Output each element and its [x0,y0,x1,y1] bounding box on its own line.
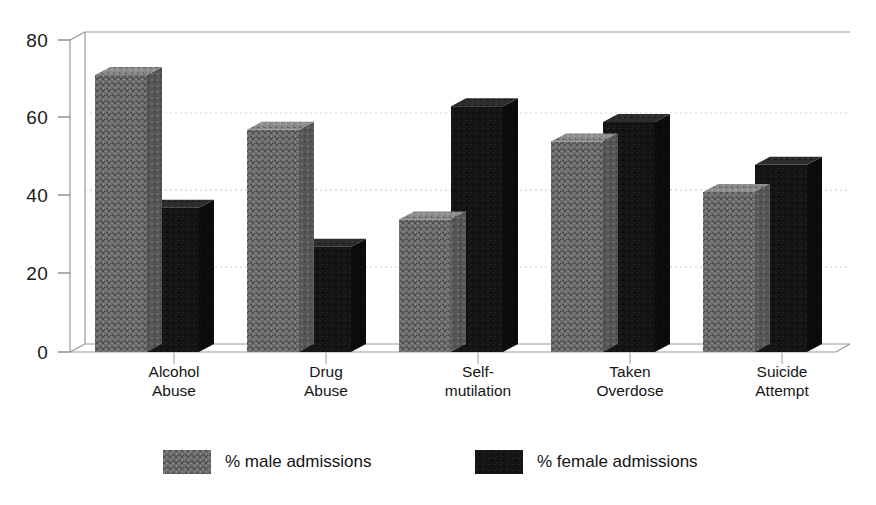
bar-front-face [399,219,451,352]
bar-suicide-attempt-male [703,184,770,352]
x-axis-label-line-1: Drug [309,363,343,380]
bar-side-face [655,114,670,352]
x-axis-label-suicide-attempt: Suicide Attempt [712,362,852,400]
legend-label-female: % female admissions [537,452,698,472]
bar-side-face [807,157,822,352]
bar-drug-abuse-male [247,122,314,352]
y-tick-label-80: 80 [4,31,48,50]
y-tick-label-0: 0 [4,343,48,362]
x-axis-label-drug-abuse: Drug Abuse [256,362,396,400]
bar-side-face [299,122,314,352]
x-axis-label-line-1: Taken [609,363,650,380]
y-tick-label-20: 20 [4,264,48,283]
bar-side-face [451,211,466,352]
x-axis-label-line-2: mutilation [408,381,548,400]
x-axis-label-line-2: Abuse [104,381,244,400]
y-tick-label-60: 60 [4,108,48,127]
bar-chart: 80 60 40 20 0 Alcohol Abuse Drug Abuse S… [0,0,876,505]
chart-legend: % male admissions % female admissions [0,450,876,496]
legend-item-male: % male admissions [163,450,371,474]
x-axis-label-line-2: Attempt [712,381,852,400]
bar-front-face [703,192,755,352]
bar-taken-overdose-male [551,133,618,352]
bar-side-face [503,98,518,352]
bar-self-mutilation-male [399,211,466,352]
x-axis-label-taken-overdose: Taken Overdose [560,362,700,400]
legend-item-female: % female admissions [475,450,698,474]
legend-swatch-female-icon [475,450,523,474]
bar-side-face [755,184,770,352]
legend-label-male: % male admissions [225,452,371,472]
x-axis-label-line-2: Overdose [560,381,700,400]
bars-layer [95,67,822,352]
x-axis-label-line-1: Suicide [757,363,808,380]
x-axis-label-line-1: Alcohol [149,363,200,380]
y-tick-label-40: 40 [4,186,48,205]
bar-side-face [147,67,162,352]
bar-side-face [199,200,214,352]
bar-side-face [603,133,618,352]
bar-alcohol-abuse-male [95,67,162,352]
bar-front-face [551,141,603,352]
x-axis-label-line-1: Self- [462,363,494,380]
y-axis-ticks [58,40,70,352]
x-axis-label-line-2: Abuse [256,381,396,400]
bar-front-face [95,75,147,352]
x-axis-label-alcohol-abuse: Alcohol Abuse [104,362,244,400]
legend-swatch-male-icon [163,450,211,474]
bar-side-face [351,239,366,352]
bar-front-face [247,130,299,352]
x-axis-label-self-mutilation: Self- mutilation [408,362,548,400]
